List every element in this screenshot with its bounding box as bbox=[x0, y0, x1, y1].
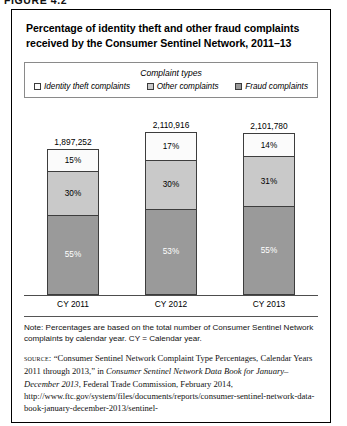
bar-segment-value: 55% bbox=[65, 250, 81, 259]
bar-series-container: 1,897,252 15% 30% 55% 2,110,916 bbox=[24, 108, 318, 295]
x-axis-labels: CY 2011 CY 2012 CY 2013 bbox=[24, 299, 318, 309]
legend-item-other: Other complaints bbox=[147, 82, 219, 91]
bar-stack: 15% 30% 55% bbox=[47, 149, 99, 295]
bar-total-label: 2,101,780 bbox=[250, 121, 287, 131]
legend-item-fraud: Fraud complaints bbox=[235, 82, 308, 91]
bar-segment-identity-theft: 14% bbox=[244, 134, 294, 156]
x-axis-tick-cy2011: CY 2011 bbox=[27, 299, 118, 309]
legend-swatch-icon bbox=[235, 83, 242, 90]
legend-swatch-icon bbox=[147, 83, 154, 90]
x-axis-tick-cy2013: CY 2013 bbox=[223, 299, 314, 309]
bar-segment-other: 30% bbox=[146, 160, 196, 208]
bar-segment-value: 53% bbox=[163, 247, 179, 256]
legend-swatch-icon bbox=[34, 83, 41, 90]
chart-plot-area: 1,897,252 15% 30% 55% 2,110,916 bbox=[24, 108, 318, 296]
bar-segment-value: 30% bbox=[163, 180, 179, 189]
bar-segment-other: 31% bbox=[244, 156, 294, 206]
figure-title: Percentage of identity theft and other f… bbox=[26, 21, 316, 51]
bar-segment-value: 14% bbox=[261, 141, 277, 150]
figure-source: source: “Consumer Sentinel Network Compl… bbox=[24, 352, 318, 414]
bar-stack: 14% 31% 55% bbox=[243, 133, 295, 295]
bar-segment-value: 55% bbox=[261, 246, 277, 255]
bar-segment-value: 15% bbox=[65, 156, 81, 165]
x-axis-tick-cy2012: CY 2012 bbox=[125, 299, 216, 309]
legend-items: Identity theft complaints Other complain… bbox=[31, 82, 311, 91]
bar-stack: 17% 30% 53% bbox=[145, 132, 197, 295]
note-divider bbox=[24, 316, 318, 317]
legend-item-label: Fraud complaints bbox=[245, 82, 308, 91]
bar-segment-value: 30% bbox=[65, 189, 81, 198]
bar-segment-fraud: 55% bbox=[48, 215, 98, 294]
chart-legend: Complaint types Identity theft complaint… bbox=[24, 62, 318, 98]
bar-segment-value: 17% bbox=[163, 142, 179, 151]
figure-note: Note: Percentages are based on the total… bbox=[24, 322, 318, 344]
legend-item-identity-theft: Identity theft complaints bbox=[34, 82, 130, 91]
bar-total-label: 1,897,252 bbox=[54, 137, 91, 147]
legend-title: Complaint types bbox=[31, 68, 311, 78]
bar-total-label: 2,110,916 bbox=[153, 120, 190, 130]
bar-group-cy2013: 2,101,780 14% 31% 55% bbox=[223, 121, 314, 295]
bar-segment-value: 31% bbox=[261, 177, 277, 186]
legend-item-label: Identity theft complaints bbox=[44, 82, 130, 91]
bar-group-cy2012: 2,110,916 17% 30% 53% bbox=[125, 120, 216, 295]
bar-group-cy2011: 1,897,252 15% 30% 55% bbox=[27, 137, 118, 295]
bar-segment-fraud: 55% bbox=[244, 206, 294, 294]
bar-segment-identity-theft: 17% bbox=[146, 133, 196, 160]
figure-label: FIGURE 4.2 bbox=[4, 0, 67, 6]
source-kicker: source: bbox=[24, 353, 52, 363]
bar-segment-fraud: 53% bbox=[146, 209, 196, 294]
bar-segment-identity-theft: 15% bbox=[48, 150, 98, 172]
figure-container: Percentage of identity theft and other f… bbox=[11, 9, 331, 423]
bar-segment-other: 30% bbox=[48, 171, 98, 214]
chart-baseline-axis bbox=[24, 295, 318, 296]
legend-item-label: Other complaints bbox=[157, 82, 219, 91]
